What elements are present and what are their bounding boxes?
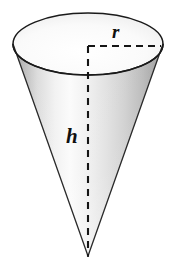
cone-figure: r h <box>0 0 174 270</box>
height-label: h <box>66 126 78 147</box>
radius-label: r <box>112 22 119 41</box>
cone-apex-point <box>87 255 89 257</box>
cone-drawing <box>0 0 174 270</box>
